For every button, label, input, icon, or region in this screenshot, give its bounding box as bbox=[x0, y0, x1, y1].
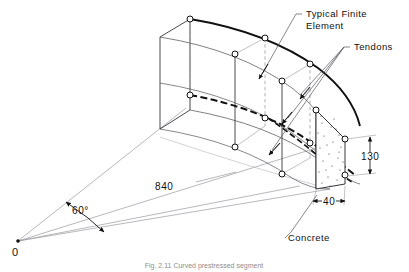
mesh-vertical-ribs-hidden bbox=[190, 19, 310, 158]
radial-line-upper bbox=[18, 108, 186, 241]
figure-caption: Fig. 2.11 Curved prestressed segment bbox=[145, 262, 264, 270]
shell-left-end-face bbox=[160, 19, 190, 129]
node bbox=[279, 171, 285, 177]
radius-label: 840 bbox=[155, 181, 174, 192]
node bbox=[262, 35, 268, 41]
figure-canvas: 60° 840 0 bbox=[0, 0, 409, 272]
radial-line-mid bbox=[18, 139, 345, 241]
height-label: 130 bbox=[361, 151, 380, 162]
thickness-ext-right bbox=[344, 186, 345, 205]
typical-finite-element-label-line2: Element bbox=[306, 20, 344, 31]
tendons-label: Tendons bbox=[354, 41, 393, 52]
concrete-face bbox=[316, 110, 345, 189]
shell-bottom-inner-edge bbox=[160, 129, 330, 189]
node bbox=[187, 16, 193, 22]
typical-finite-element-label-line1: Typical Finite bbox=[306, 8, 367, 19]
node bbox=[307, 140, 313, 146]
origin-point bbox=[16, 239, 20, 243]
radial-line-inner bbox=[18, 186, 300, 241]
concrete-end-block bbox=[316, 110, 345, 189]
node bbox=[342, 172, 348, 178]
angle-label: 60° bbox=[72, 205, 89, 216]
radius-leader bbox=[196, 172, 236, 182]
node bbox=[262, 115, 268, 121]
node bbox=[313, 107, 319, 113]
typical-finite-element-leader bbox=[262, 14, 302, 74]
node bbox=[307, 61, 313, 67]
node bbox=[279, 78, 285, 84]
concrete-label: Concrete bbox=[288, 232, 330, 243]
node bbox=[232, 144, 238, 150]
thickness-label: 40 bbox=[323, 196, 335, 207]
radial-line-lower bbox=[18, 189, 330, 241]
node bbox=[232, 51, 238, 57]
origin-label: 0 bbox=[12, 246, 18, 258]
height-ext-bottom bbox=[347, 173, 376, 176]
shell-top-outer-edge bbox=[190, 19, 360, 126]
radial-plan-lines bbox=[18, 108, 345, 241]
node bbox=[187, 92, 193, 98]
height-ext-top bbox=[347, 135, 376, 139]
